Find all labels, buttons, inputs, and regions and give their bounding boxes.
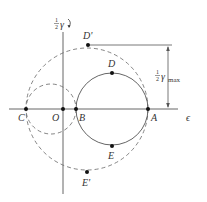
arrowhead-up-icon	[166, 46, 170, 51]
point-E-prime	[85, 170, 89, 174]
gamma-label-denominator: 2	[55, 24, 58, 30]
point-C	[24, 107, 28, 111]
gamma-label-numerator: 1	[55, 17, 58, 23]
gamma-max-denominator: 2	[156, 76, 159, 82]
point-D-prime	[86, 43, 90, 47]
label-E-prime: E'	[81, 177, 91, 188]
label-C: C	[18, 112, 25, 123]
arrowhead-down-icon	[166, 103, 170, 108]
label-E: E	[107, 150, 114, 161]
point-D	[110, 71, 114, 75]
point-O	[61, 107, 65, 111]
epsilon-axis-label: ϵ	[186, 112, 191, 123]
mohr-circle-diagram: C O B A D E D' E' ϵ 1 2 γ 1 2 γ max	[0, 0, 207, 202]
label-O: O	[52, 112, 59, 123]
label-B: B	[79, 112, 85, 123]
gamma-max-symbol: γ	[161, 71, 166, 82]
gamma-max-numerator: 1	[156, 69, 159, 75]
label-D: D	[107, 58, 116, 69]
point-E	[110, 144, 114, 148]
gamma-label-symbol: γ	[60, 19, 65, 30]
label-A: A	[150, 112, 158, 123]
point-B	[74, 107, 78, 111]
point-A	[146, 107, 150, 111]
label-D-prime: D'	[82, 30, 93, 41]
rotation-arrowhead-icon	[68, 25, 71, 28]
gamma-max-subscript: max	[168, 76, 181, 84]
